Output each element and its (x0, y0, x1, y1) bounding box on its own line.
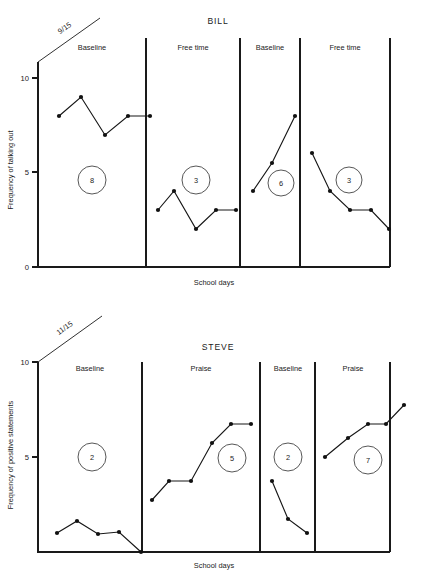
data-point (117, 530, 121, 534)
phase-mean-label-2-bill: 3 (194, 176, 198, 185)
data-point (286, 517, 290, 521)
phase-label-4-steve: Praise (343, 364, 364, 373)
data-point (251, 189, 255, 193)
data-point (210, 441, 214, 445)
data-point (310, 151, 314, 155)
data-point (214, 208, 218, 212)
data-point (148, 114, 152, 118)
data-point (75, 519, 79, 523)
phase-label-1-steve: Baseline (76, 364, 104, 373)
ylabel-bill: Frequency of talking out (6, 131, 15, 210)
data-point (167, 479, 171, 483)
phase-label-4-bill: Free time (329, 43, 360, 52)
data-point (139, 550, 143, 554)
data-line-phase3-steve (272, 481, 307, 533)
axes-bill (38, 62, 390, 267)
data-point (189, 479, 193, 483)
ytick-label-5-bill: 5 (25, 168, 29, 177)
data-line-phase2-steve (152, 424, 251, 500)
data-point (156, 208, 160, 212)
data-line-phase1-steve (57, 521, 141, 552)
data-point (229, 422, 233, 426)
ytick-label-10-bill: 10 (21, 74, 29, 83)
data-point (55, 531, 59, 535)
data-point (126, 114, 130, 118)
ytick-label-10-steve: 10 (21, 358, 29, 367)
ytick-label-5-steve: 5 (25, 453, 29, 462)
phase-label-3-bill: Baseline (256, 43, 284, 52)
data-point (323, 455, 327, 459)
chart-steve: 11/15 STEVE 10 5 Frequency of positive s… (0, 290, 437, 573)
phase-label-1-bill: Baseline (78, 43, 106, 52)
data-point (96, 532, 100, 536)
data-point (346, 436, 350, 440)
ylabel-steve: Frequency of positive statements (6, 400, 15, 509)
data-point (305, 531, 309, 535)
phase-mean-label-3-steve: 2 (286, 453, 290, 462)
data-point (79, 95, 83, 99)
data-point (103, 133, 107, 137)
data-line-phase4-bill (312, 153, 389, 229)
data-point (293, 114, 297, 118)
data-line-phase3-bill (253, 116, 295, 191)
data-point (172, 189, 176, 193)
data-point (384, 422, 388, 426)
figure-container: 9/15 BILL 10 5 0 Frequency of talking ou… (0, 0, 437, 573)
data-point (366, 422, 370, 426)
xlabel-steve: School days (194, 561, 235, 570)
data-point (369, 208, 373, 212)
phase-label-2-bill: Free time (177, 43, 208, 52)
chart-title-bill: BILL (207, 16, 228, 26)
data-point (150, 498, 154, 502)
phase-mean-label-3-bill: 6 (279, 179, 283, 188)
data-line-phase2-bill (158, 191, 236, 229)
data-point (328, 189, 332, 193)
xlabel-bill: School days (194, 278, 235, 287)
data-line-phase1-bill (59, 97, 150, 135)
data-point (249, 422, 253, 426)
data-point (234, 208, 238, 212)
ytick-label-0-bill: 0 (25, 263, 29, 272)
date-label-bill: 9/15 (56, 20, 73, 36)
data-point (270, 479, 274, 483)
data-point (270, 161, 274, 165)
data-point (194, 227, 198, 231)
phase-mean-label-2-steve: 5 (230, 454, 234, 463)
phase-label-2-steve: Praise (191, 364, 212, 373)
chart-title-steve: STEVE (202, 342, 234, 352)
phase-label-3-steve: Baseline (274, 364, 302, 373)
phase-mean-label-4-bill: 3 (347, 176, 351, 185)
chart-bill: 9/15 BILL 10 5 0 Frequency of talking ou… (0, 0, 437, 290)
data-point (57, 114, 61, 118)
phase-mean-label-1-bill: 8 (90, 176, 94, 185)
data-line-phase4-steve (325, 405, 404, 457)
phase-mean-label-1-steve: 2 (90, 453, 94, 462)
data-point (348, 208, 352, 212)
date-label-steve: 11/15 (55, 319, 75, 337)
data-point (402, 403, 406, 407)
phase-mean-label-4-steve: 7 (366, 456, 370, 465)
data-point (387, 227, 391, 231)
